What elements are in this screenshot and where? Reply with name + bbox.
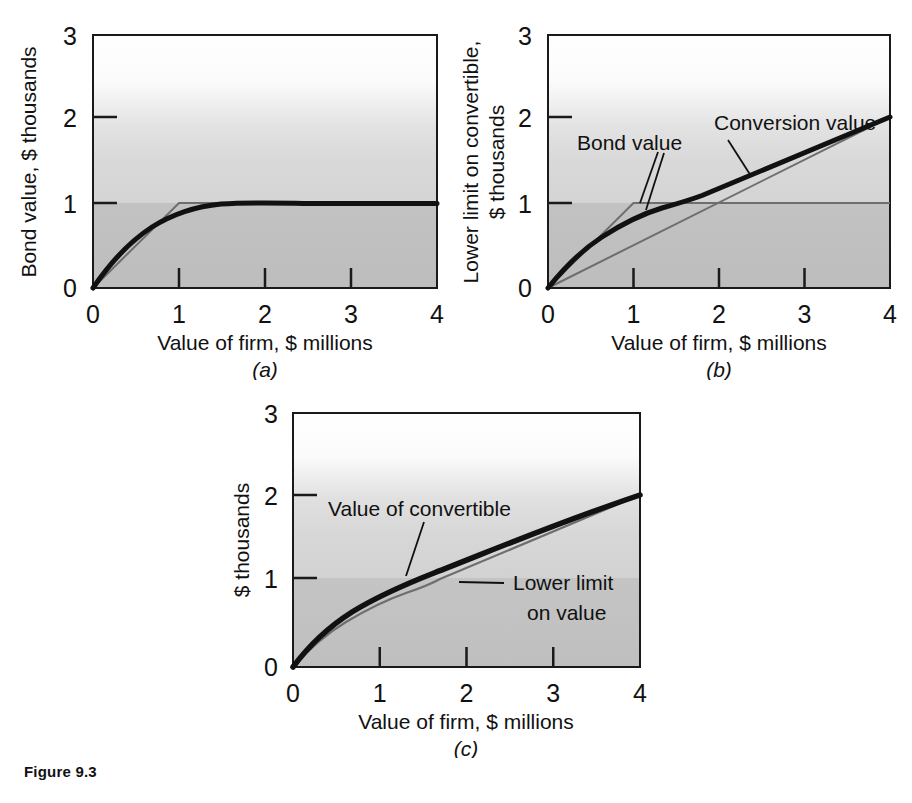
panel-a: 3 2 1 0 0 1 2 3 4 Value of firm, $ milli… <box>0 0 456 380</box>
panel-a-xlabel: Value of firm, $ millions <box>157 331 373 354</box>
panel-b-ytick-2: 2 <box>518 104 532 132</box>
panel-b-xtick-3: 3 <box>798 300 812 328</box>
panel-c-xtick-3: 3 <box>546 679 560 707</box>
panel-a-ytick-2: 2 <box>63 104 77 132</box>
annotation-value-of-convertible: Value of convertible <box>328 497 511 520</box>
panel-a-xtick-3: 3 <box>344 300 358 328</box>
annotation-on-value: on value <box>527 601 606 624</box>
panel-a-letter: (a) <box>252 358 278 380</box>
annotation-bond-value: Bond value <box>577 131 682 154</box>
panel-c-ytick-2: 2 <box>264 482 278 510</box>
panel-c-ytick-3: 3 <box>264 400 278 428</box>
panel-a-xtick-1: 1 <box>172 300 186 328</box>
panel-b-xtick-2: 2 <box>712 300 726 328</box>
panel-c-svg: Value of convertible Lower limit on valu… <box>228 398 684 758</box>
panel-c-xtick-4: 4 <box>633 679 647 707</box>
panel-b-xlabel: Value of firm, $ millions <box>611 331 827 354</box>
panel-b-ytick-1: 1 <box>518 190 532 218</box>
panel-c-ytick-1: 1 <box>264 565 278 593</box>
panel-a-ytick-0: 0 <box>63 274 77 302</box>
panel-b-xtick-1: 1 <box>627 300 641 328</box>
panel-b-ylabel-line1: Lower limit on convertible, <box>459 41 482 284</box>
panel-b-letter: (b) <box>706 358 732 380</box>
panel-a-ytick-1: 1 <box>63 190 77 218</box>
panel-c: Value of convertible Lower limit on valu… <box>228 398 684 758</box>
panel-a-ylabel: Bond value, $ thousands <box>17 46 40 277</box>
panel-c-xlabel: Value of firm, $ millions <box>358 710 574 733</box>
panel-a-xtick-2: 2 <box>258 300 272 328</box>
panel-b-ylabel-line2: $ thousands <box>485 105 508 219</box>
panel-a-xtick-0: 0 <box>86 300 100 328</box>
panel-b: Conversion value Bond value 3 2 1 0 0 1 … <box>456 0 912 380</box>
panel-c-ytick-0: 0 <box>264 653 278 681</box>
panel-a-xtick-4: 4 <box>430 300 444 328</box>
panel-c-xtick-1: 1 <box>373 679 387 707</box>
panel-b-xtick-0: 0 <box>541 300 555 328</box>
panel-b-xtick-4: 4 <box>883 300 897 328</box>
plot-background-upper <box>93 35 437 203</box>
panel-a-ytick-3: 3 <box>63 22 77 50</box>
lower-limit-leader-line <box>459 582 504 583</box>
panel-b-svg: Conversion value Bond value 3 2 1 0 0 1 … <box>456 0 912 380</box>
panel-a-svg: 3 2 1 0 0 1 2 3 4 Value of firm, $ milli… <box>0 0 456 380</box>
plot-background-upper <box>293 413 640 578</box>
figure-container: 3 2 1 0 0 1 2 3 4 Value of firm, $ milli… <box>0 0 912 803</box>
panel-b-ytick-3: 3 <box>518 22 532 50</box>
panel-c-ylabel-line2: $ thousands <box>230 483 253 597</box>
annotation-lower-limit: Lower limit <box>513 571 614 594</box>
panel-c-xtick-2: 2 <box>460 679 474 707</box>
panel-b-ytick-0: 0 <box>518 274 532 302</box>
panel-c-xtick-0: 0 <box>286 679 300 707</box>
annotation-conversion-value: Conversion value <box>714 111 876 134</box>
panel-c-letter: (c) <box>454 737 479 758</box>
figure-caption: Figure 9.3 <box>24 763 97 780</box>
